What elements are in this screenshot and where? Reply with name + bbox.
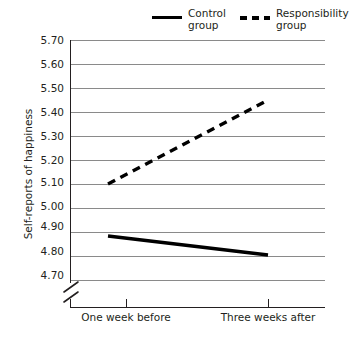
x-tick-label-one-week-before-text: One week before: [81, 311, 170, 323]
gridlines: [70, 41, 325, 281]
series-line-control-group: [108, 236, 268, 255]
x-tick-label-one-week-before: One week before: [71, 311, 181, 323]
x-tick-label-three-weeks-after: Three weeks after: [213, 311, 323, 323]
x-tick-label-three-weeks-after-text: Three weeks after: [221, 311, 316, 323]
